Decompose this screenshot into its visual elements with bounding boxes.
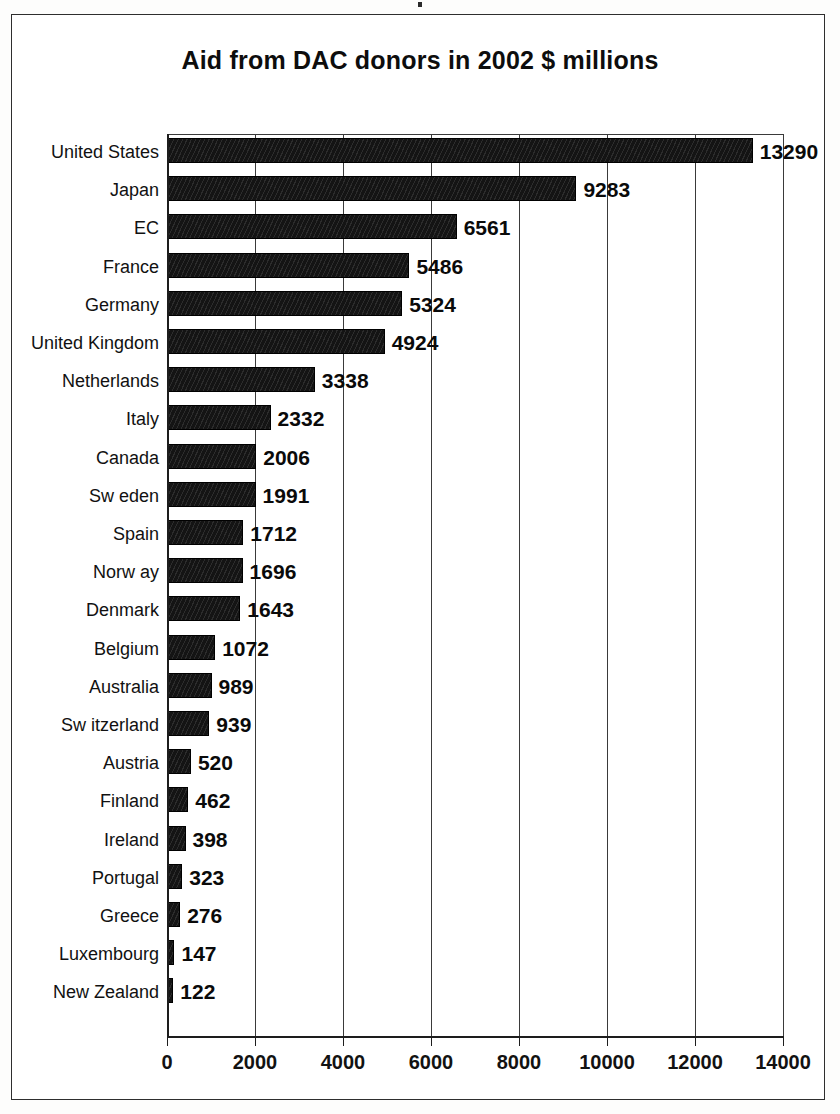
x-tick-label-4000: 4000 [321,1051,366,1074]
gridline-10000 [607,134,608,1037]
x-tick-label-0: 0 [161,1051,172,1074]
bar [168,176,576,201]
bar-value-label: 323 [189,866,224,890]
bar [168,558,243,583]
chart-title: Aid from DAC donors in 2002 $ millions [0,46,840,75]
bar-value-label: 5486 [416,255,463,279]
bar [168,787,188,812]
bar [168,367,315,392]
bar [168,635,215,660]
bar-value-label: 1991 [263,484,310,508]
gridline-8000 [519,134,520,1037]
x-tick-label-10000: 10000 [579,1051,635,1074]
bar-value-label: 989 [219,675,254,699]
category-label: Greece [11,906,159,927]
category-label: Sw itzerland [11,715,159,736]
scan-artifact-dot [418,2,422,7]
category-label: Canada [11,448,159,469]
bar-value-label: 939 [216,713,251,737]
bar [168,673,212,698]
category-label: Netherlands [11,371,159,392]
chart-page: Aid from DAC donors in 2002 $ millions U… [0,0,840,1114]
bar-value-label: 276 [187,904,222,928]
category-label: Italy [11,409,159,430]
bar [168,444,256,469]
x-tick-8000 [519,1037,520,1046]
bar [168,520,243,545]
bar-value-label: 520 [198,751,233,775]
bar [168,291,402,316]
bar-value-label: 1072 [222,637,269,661]
category-label: Spain [11,524,159,545]
bar-value-label: 122 [180,980,215,1004]
category-label: Belgium [11,639,159,660]
category-label: Austria [11,753,159,774]
bar-value-label: 4924 [392,331,439,355]
bar [168,329,385,354]
x-tick-label-2000: 2000 [233,1051,278,1074]
bar-value-label: 2332 [278,407,325,431]
bar-value-label: 398 [193,828,228,852]
bar-value-label: 13290 [760,140,818,164]
category-label: United Kingdom [11,333,159,354]
bar [168,826,186,851]
gridline-14000 [783,134,784,1037]
bar-value-label: 9283 [583,178,630,202]
x-tick-label-14000: 14000 [755,1051,811,1074]
category-label: New Zealand [11,982,159,1003]
bar-value-label: 5324 [409,293,456,317]
bar [168,405,271,430]
bar [168,864,182,889]
y-axis-line [167,134,169,1038]
category-label: Germany [11,295,159,316]
bar [168,711,209,736]
bar [168,749,191,774]
bar-value-label: 147 [181,942,216,966]
x-tick-0 [167,1037,168,1046]
bar [168,482,256,507]
category-label: Luxembourg [11,944,159,965]
category-label: United States [11,142,159,163]
category-label: Sw eden [11,486,159,507]
x-tick-label-6000: 6000 [409,1051,454,1074]
x-axis-line [167,1036,784,1038]
bar-value-label: 462 [195,789,230,813]
category-label: Australia [11,677,159,698]
category-label: Japan [11,180,159,201]
category-label: Finland [11,791,159,812]
bar [168,596,240,621]
gridline-12000 [695,134,696,1037]
x-tick-14000 [783,1037,784,1046]
x-tick-label-8000: 8000 [497,1051,542,1074]
bar [168,253,409,278]
category-label: Portugal [11,868,159,889]
bar-value-label: 1712 [250,522,297,546]
category-label: Norw ay [11,562,159,583]
x-tick-10000 [607,1037,608,1046]
bar-value-label: 3338 [322,369,369,393]
plot-area: 1329092836561548653244924333823322006199… [167,134,783,1037]
bar-value-label: 6561 [464,216,511,240]
bar [168,214,457,239]
category-label: Ireland [11,830,159,851]
plot-top-rule [167,134,783,135]
category-label: France [11,257,159,278]
category-label: EC [11,218,159,239]
category-label: Denmark [11,600,159,621]
x-tick-2000 [255,1037,256,1046]
bar [168,138,753,163]
bar [168,902,180,927]
x-tick-label-12000: 12000 [667,1051,723,1074]
bar-value-label: 1696 [250,560,297,584]
x-tick-6000 [431,1037,432,1046]
bar-value-label: 1643 [247,598,294,622]
bar-value-label: 2006 [263,446,310,470]
x-tick-12000 [695,1037,696,1046]
x-tick-4000 [343,1037,344,1046]
